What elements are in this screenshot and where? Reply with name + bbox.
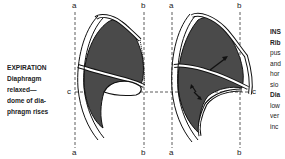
expiration-caption: EXPIRATION Diaphragm relaxed— dome of di… xyxy=(7,62,48,117)
inspiration-caption: INS Rib pus and hor sio Dia low ver inc xyxy=(270,27,281,132)
expiration-line: phragm rises xyxy=(7,106,48,117)
label-c-left: c xyxy=(67,88,71,96)
label-b-bottom-left: b xyxy=(141,149,145,157)
label-b-bottom-right: b xyxy=(237,149,241,157)
inspiration-lung xyxy=(172,14,251,142)
inspiration-line: pus xyxy=(270,48,281,59)
inspiration-line: ver xyxy=(270,111,281,122)
expiration-lung xyxy=(78,16,145,140)
inspiration-line: low xyxy=(270,101,281,112)
inspiration-line: hor xyxy=(270,69,281,80)
inspiration-line: and xyxy=(270,59,281,70)
inspiration-line: Dia xyxy=(270,90,281,101)
label-c-right: c xyxy=(252,88,256,96)
inspiration-line: inc xyxy=(270,122,281,133)
label-a-bottom-right: a xyxy=(169,149,173,157)
label-a-top-left: a xyxy=(72,2,76,10)
label-a-top-right: a xyxy=(169,2,173,10)
expiration-line: dome of dia- xyxy=(7,95,48,106)
label-a-bottom-left: a xyxy=(72,149,76,157)
label-b-top-right: b xyxy=(237,2,241,10)
expiration-line: relaxed— xyxy=(7,84,48,95)
expiration-title: EXPIRATION xyxy=(7,62,48,73)
inspiration-title: INS xyxy=(270,27,281,38)
label-b-top-left: b xyxy=(141,2,145,10)
inspiration-line: Rib xyxy=(270,38,281,49)
expiration-line: Diaphragm xyxy=(7,73,48,84)
inspiration-line: sio xyxy=(270,80,281,91)
